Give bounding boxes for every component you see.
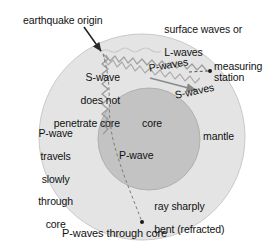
pw-slow-line-3: slowly xyxy=(42,173,70,185)
mantle-label: mantle xyxy=(203,131,234,142)
ray-line-1: ray sharply xyxy=(154,200,204,212)
s-wave-no-line-1: S-wave xyxy=(86,71,120,83)
p-wave-in-core-label: P-wave xyxy=(119,150,153,161)
surface-waves-line-1: surface waves or xyxy=(164,23,242,35)
p-wave-travels-slowly-label: P-wave travels slowly through core xyxy=(10,117,90,242)
measuring-station-label-line2: station xyxy=(214,72,244,83)
p-waves-through-core-label: P-waves through core xyxy=(62,228,167,240)
pw-slow-line-1: P-wave xyxy=(38,127,72,139)
diagram-canvas: earthquake origin surface waves or L-wav… xyxy=(0,0,279,252)
earthquake-origin-label: earthquake origin xyxy=(23,15,102,26)
s-wave-no-line-2: does not xyxy=(81,94,120,106)
pw-slow-line-4: through xyxy=(38,195,73,207)
pw-slow-line-2: travels xyxy=(41,150,71,162)
core-label: core xyxy=(142,118,162,129)
